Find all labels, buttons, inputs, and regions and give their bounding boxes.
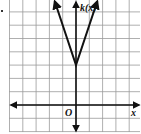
origin-label: O	[65, 108, 72, 118]
x-axis-label: x	[131, 108, 136, 118]
y-axis-label: k(x)	[80, 3, 97, 13]
grid	[9, 0, 141, 132]
